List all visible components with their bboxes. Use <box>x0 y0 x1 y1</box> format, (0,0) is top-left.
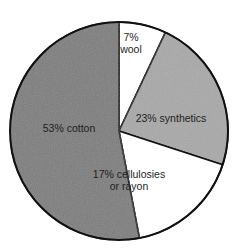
slice-label-synthetics: 23% synthetics <box>136 112 207 124</box>
slice-label-wool: 7%wool <box>119 31 142 55</box>
slice-label-cotton: 53% cotton <box>43 122 96 134</box>
pie-chart: 7%wool23% synthetics17% cellulosiesor ra… <box>0 0 239 252</box>
